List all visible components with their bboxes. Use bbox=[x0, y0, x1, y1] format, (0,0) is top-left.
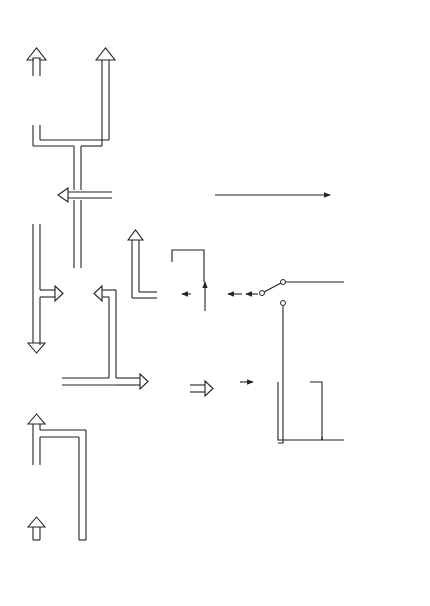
bus-interleave-to-coder bbox=[190, 381, 213, 396]
bus-output-select-up bbox=[74, 200, 81, 268]
digital-audio-recorder-diagram bbox=[0, 0, 430, 606]
write-to-record-head bbox=[278, 382, 344, 440]
read-after-write-switch[interactable] bbox=[260, 280, 345, 306]
bus-interpolate-to-crossfader bbox=[28, 224, 63, 353]
timebase-to-capstan bbox=[172, 250, 204, 282]
bus-da-to-analog-output bbox=[27, 48, 46, 76]
bus-punch-rehearse bbox=[62, 286, 148, 389]
bus-analog-input bbox=[28, 517, 45, 540]
bus-deinterleave-to-interpolate bbox=[58, 188, 112, 202]
bus-digital-output bbox=[96, 48, 115, 146]
bus-interconnect-top bbox=[33, 125, 109, 190]
write-amp-out bbox=[310, 382, 322, 440]
bus-timebase-to-deinterleave bbox=[128, 230, 157, 298]
